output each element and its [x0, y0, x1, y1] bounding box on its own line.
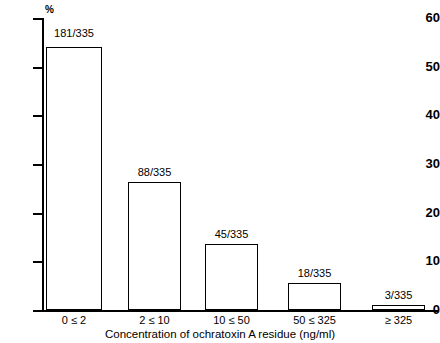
y-axis-tick-label-20: 20	[414, 206, 440, 219]
bar-value-label-1: 88/335	[121, 167, 188, 178]
x-axis-category-label-1: 2 ≤ 10	[121, 315, 188, 326]
bar-value-label-2: 45/335	[198, 229, 265, 240]
y-axis-tick-label-60: 60	[414, 11, 440, 24]
x-axis-category-label-3: 50 ≤ 325	[281, 315, 348, 326]
x-axis-category-label-0: 0 ≤ 2	[41, 315, 107, 326]
y-axis-tick-20	[33, 213, 42, 215]
bar-4[interactable]	[372, 305, 425, 310]
bar-value-label-3: 18/335	[281, 268, 348, 279]
x-axis-line	[33, 310, 438, 312]
bar-0[interactable]	[46, 47, 102, 310]
x-axis-category-label-2: 10 ≤ 50	[198, 315, 265, 326]
x-axis-category-label-4: ≥ 325	[365, 315, 432, 326]
bar-3[interactable]	[288, 283, 341, 310]
bar-value-label-0: 181/335	[41, 28, 107, 39]
y-axis-tick-label-10: 10	[414, 254, 440, 267]
y-axis-tick-label-50: 50	[414, 60, 440, 73]
y-axis-tick-50	[33, 67, 42, 69]
bar-value-label-4: 3/335	[365, 290, 432, 301]
bar-1[interactable]	[128, 182, 181, 310]
y-axis-line	[42, 18, 44, 310]
y-axis-tick-label-30: 30	[414, 157, 440, 170]
y-axis-tick-label-40: 40	[414, 108, 440, 121]
y-axis-tick-30	[33, 164, 42, 166]
x-axis-title: Concentration of ochratoxin A residue (n…	[0, 329, 440, 341]
y-axis-tick-10	[33, 261, 42, 263]
y-axis-tick-60	[33, 18, 42, 20]
y-axis-tick-40	[33, 115, 42, 117]
bar-2[interactable]	[205, 244, 258, 310]
y-axis-unit-label: %	[45, 5, 54, 15]
bar-chart: % 60 50 40 30 20 10 0 181/335 0 ≤ 2 88/3…	[0, 0, 440, 343]
